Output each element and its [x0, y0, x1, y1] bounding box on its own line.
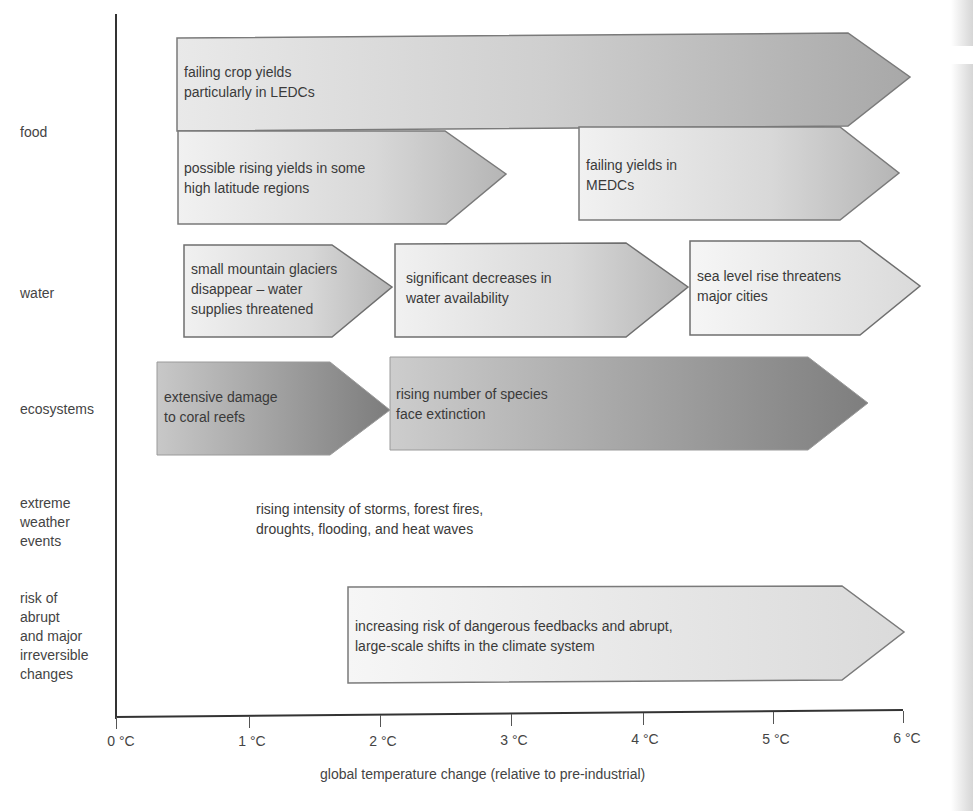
- arrow-text-species-extinction: rising number of species face extinction: [396, 384, 548, 424]
- arrow-text-water-availability: significant decreases in water availabil…: [406, 268, 552, 308]
- arrow-text-sea-level: sea level rise threatens major cities: [697, 266, 841, 306]
- text-extreme-weather: rising intensity of storms, forest fires…: [256, 499, 483, 539]
- arrow-text-failing-yields-medcs: failing yields in MEDCs: [586, 155, 677, 195]
- arrow-text-abrupt-shifts: increasing risk of dangerous feedbacks a…: [355, 616, 673, 656]
- arrow-text-rising-yields: possible rising yields in some high lati…: [184, 158, 365, 198]
- arrow-text-coral-reefs: extensive damage to coral reefs: [164, 387, 278, 427]
- arrow-text-glaciers: small mountain glaciers disappear – wate…: [191, 259, 337, 319]
- arrow-text-failing-crop-yields: failing crop yields particularly in LEDC…: [184, 62, 315, 102]
